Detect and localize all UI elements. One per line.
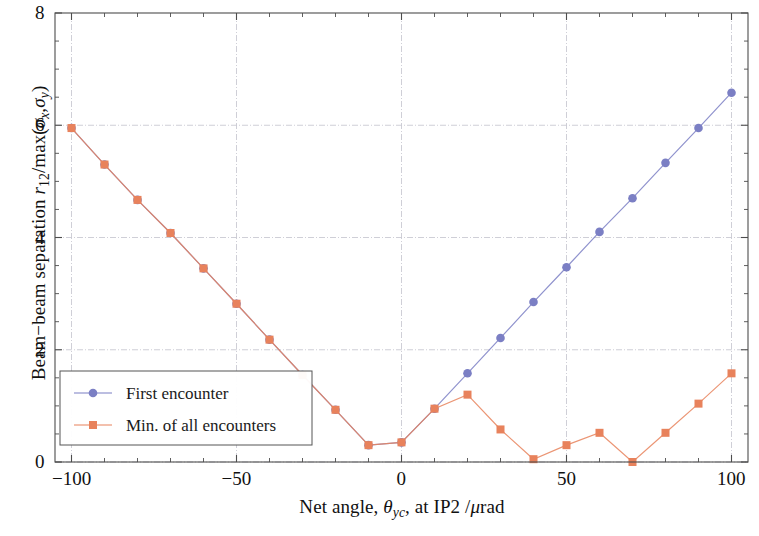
y-tick-label: 8 (35, 2, 45, 24)
data-point (596, 429, 604, 437)
ylabel-r-sub: 12 (37, 173, 52, 187)
data-point (266, 336, 274, 344)
ylabel-comma: , (28, 108, 49, 113)
data-point (496, 334, 505, 343)
data-point (365, 441, 373, 449)
data-point (431, 405, 439, 413)
ylabel-sigma-y-sub: y (37, 92, 52, 98)
x-tick-label: −50 (222, 468, 252, 490)
data-point (563, 441, 571, 449)
data-point (68, 124, 76, 132)
xlabel-mu: μ (470, 496, 480, 517)
data-point (200, 264, 208, 272)
legend-label: Min. of all encounters (126, 416, 276, 435)
data-point (661, 159, 670, 168)
data-point (695, 400, 703, 408)
legend-marker-circle (89, 389, 98, 398)
data-point (167, 229, 175, 237)
data-point (398, 438, 406, 446)
data-point (662, 429, 670, 437)
xlabel-theta: θ (383, 496, 392, 517)
legend-label: First encounter (126, 384, 229, 403)
ylabel-close: ) (28, 86, 49, 92)
y-tick-label: 0 (35, 451, 45, 473)
data-point (497, 425, 505, 433)
legend-marker-square (89, 421, 97, 429)
data-point (463, 369, 472, 378)
x-tick-label: 0 (397, 468, 407, 490)
x-axis-label: Net angle, θyc, at IP2 /μrad (55, 496, 749, 521)
data-point (332, 406, 340, 414)
data-point (464, 391, 472, 399)
xlabel-rad: rad (480, 496, 505, 517)
chart-legend[interactable]: First encounterMin. of all encounters (60, 371, 312, 445)
y-tick-label: 6 (35, 114, 45, 136)
x-tick-label: −100 (52, 468, 91, 490)
x-tick-label: 50 (557, 468, 576, 490)
data-point (233, 300, 241, 308)
y-tick-label: 2 (35, 339, 45, 361)
ylabel-r: r (28, 187, 49, 195)
xlabel-theta-sub: yc (393, 505, 405, 520)
x-tick-label: 100 (717, 468, 746, 490)
ylabel-sigma-y: σ (28, 98, 49, 107)
data-point (628, 194, 637, 203)
data-point (101, 161, 109, 169)
data-point (562, 263, 571, 272)
chart-plot-area: First encounterMin. of all encounters (0, 0, 759, 536)
data-point (134, 196, 142, 204)
chart-figure: First encounterMin. of all encounters Be… (0, 0, 759, 536)
y-tick-label: 4 (35, 227, 45, 249)
data-point (595, 228, 604, 237)
xlabel-tail: , at IP2 / (405, 496, 470, 517)
xlabel-lead: Net angle, (299, 496, 383, 517)
data-point (529, 298, 538, 307)
data-point (727, 88, 736, 97)
data-point (694, 124, 703, 133)
data-point (728, 369, 736, 377)
